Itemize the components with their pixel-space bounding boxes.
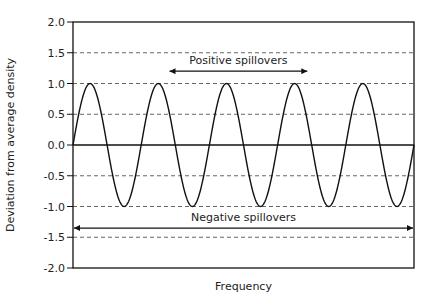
y-tick-label: 1.0 [48, 78, 66, 91]
y-axis-label: Deviation from average density [4, 57, 17, 232]
y-tick-label: 1.5 [48, 47, 66, 60]
y-tick-label: -1.5 [44, 231, 65, 244]
negative-spillovers-label: Negative spillovers [191, 211, 296, 224]
y-tick-label: -2.0 [44, 262, 65, 275]
positive-spillovers-label: Positive spillovers [189, 54, 287, 67]
y-tick-label: 0.0 [48, 139, 66, 152]
y-tick-label: -1.0 [44, 201, 65, 214]
y-tick-label: -0.5 [44, 170, 65, 183]
x-axis-label: Frequency [215, 280, 272, 293]
chart: 2.01.51.00.50.0-0.5-1.0-1.5-2.0 Positive… [0, 0, 435, 307]
y-tick-label: 2.0 [48, 16, 66, 29]
y-axis-ticks: 2.01.51.00.50.0-0.5-1.0-1.5-2.0 [44, 16, 73, 275]
y-tick-label: 0.5 [48, 108, 66, 121]
